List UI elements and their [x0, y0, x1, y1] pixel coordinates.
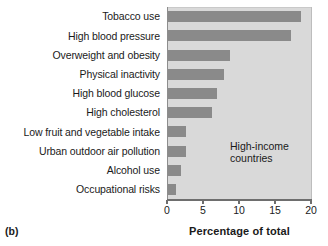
bar-row	[167, 122, 311, 141]
category-label: High cholesterol	[0, 103, 164, 122]
category-label: Overweight and obesity	[0, 45, 164, 64]
category-label: Physical inactivity	[0, 65, 164, 84]
bar	[167, 184, 176, 195]
x-tick-label: 15	[269, 204, 281, 216]
bar-row	[167, 45, 311, 64]
bar-row	[167, 180, 311, 199]
x-tick-label: 0	[164, 204, 170, 216]
bar-row	[167, 7, 311, 26]
bar	[167, 50, 230, 61]
bar	[167, 30, 291, 41]
x-tick-label: 10	[233, 204, 245, 216]
category-label: High blood pressure	[0, 26, 164, 45]
figure-panel-b: Tobacco use High blood pressure Overweig…	[0, 0, 328, 246]
category-label: Urban outdoor air pollution	[0, 141, 164, 160]
bar	[167, 88, 217, 99]
category-label: Occupational risks	[0, 180, 164, 199]
bar	[167, 69, 224, 80]
category-label: Alcohol use	[0, 161, 164, 180]
bar	[167, 146, 186, 157]
bar-row	[167, 103, 311, 122]
bar	[167, 165, 181, 176]
bar	[167, 11, 301, 22]
panel-label: (b)	[5, 225, 18, 237]
bar-row	[167, 84, 311, 103]
bar	[167, 126, 186, 137]
category-label: Low fruit and vegetable intake	[0, 122, 164, 141]
y-axis-line	[167, 7, 168, 200]
category-label: High blood glucose	[0, 84, 164, 103]
chart-annotation: High-income countries	[230, 140, 289, 164]
plot-area: High-income countries	[167, 7, 311, 199]
plot-frame-top	[167, 7, 312, 8]
x-tick-label: 5	[200, 204, 206, 216]
bar-row	[167, 65, 311, 84]
category-label: Tobacco use	[0, 7, 164, 26]
bar-series	[167, 7, 311, 199]
x-tick-label: 20	[305, 204, 317, 216]
bar	[167, 107, 212, 118]
plot-frame-right	[311, 7, 312, 200]
bar-row	[167, 26, 311, 45]
x-axis-title: Percentage of total	[167, 225, 312, 237]
category-axis-labels: Tobacco use High blood pressure Overweig…	[0, 7, 164, 199]
